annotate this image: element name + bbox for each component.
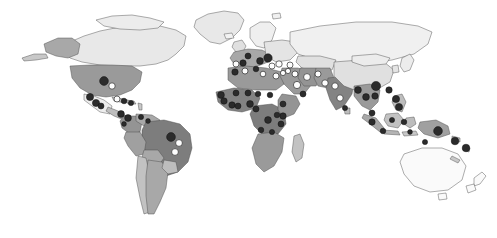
map-marker-balkans[interactable] bbox=[264, 54, 272, 62]
map-marker-brazil-north[interactable] bbox=[167, 133, 176, 142]
map-marker-vanuatu[interactable] bbox=[462, 144, 470, 152]
map-marker-iran[interactable] bbox=[304, 74, 311, 81]
map-marker-papua-new-guinea[interactable] bbox=[434, 127, 443, 136]
map-marker-malaysia[interactable] bbox=[369, 110, 375, 116]
map-marker-iraq[interactable] bbox=[292, 71, 298, 77]
map-marker-tunisia[interactable] bbox=[253, 66, 259, 72]
map-marker-myanmar[interactable] bbox=[355, 87, 362, 94]
map-marker-sudan[interactable] bbox=[267, 92, 273, 98]
map-marker-pakistan[interactable] bbox=[322, 80, 328, 86]
map-marker-chad[interactable] bbox=[255, 91, 261, 97]
map-marker-greece[interactable] bbox=[269, 63, 275, 69]
map-marker-algeria[interactable] bbox=[242, 68, 248, 74]
map-marker-solomon-islands[interactable] bbox=[451, 137, 459, 145]
map-marker-zambia[interactable] bbox=[269, 129, 274, 134]
map-marker-vietnam[interactable] bbox=[372, 93, 378, 99]
world-map-figure bbox=[0, 0, 497, 238]
map-marker-ecuador[interactable] bbox=[122, 122, 127, 127]
map-marker-dr-congo[interactable] bbox=[265, 117, 272, 124]
map-marker-mali[interactable] bbox=[233, 90, 239, 96]
map-marker-niger[interactable] bbox=[245, 90, 251, 96]
map-marker-syria[interactable] bbox=[285, 68, 290, 73]
map-marker-portugal[interactable] bbox=[233, 61, 239, 67]
map-marker-israel[interactable] bbox=[280, 70, 285, 75]
map-marker-kenya[interactable] bbox=[280, 113, 286, 119]
map-marker-mexico-north[interactable] bbox=[86, 93, 93, 100]
map-marker-colombia[interactable] bbox=[125, 115, 132, 122]
map-marker-turkey-east[interactable] bbox=[287, 62, 293, 68]
map-marker-libya[interactable] bbox=[260, 71, 266, 77]
map-marker-taiwan[interactable] bbox=[386, 87, 392, 93]
map-marker-turkey-west[interactable] bbox=[276, 61, 282, 67]
map-marker-mexico-south[interactable] bbox=[98, 103, 104, 109]
map-marker-tanzania[interactable] bbox=[278, 121, 284, 127]
map-marker-afghanistan[interactable] bbox=[315, 71, 321, 77]
map-marker-thailand[interactable] bbox=[363, 94, 370, 101]
map-marker-sumatra[interactable] bbox=[369, 119, 375, 125]
map-marker-united-states-east[interactable] bbox=[109, 83, 115, 89]
map-marker-philippines-south[interactable] bbox=[395, 103, 402, 110]
map-marker-sulawesi[interactable] bbox=[401, 119, 407, 125]
map-marker-angola[interactable] bbox=[258, 127, 264, 133]
map-marker-italy[interactable] bbox=[257, 58, 264, 65]
map-marker-india-south[interactable] bbox=[337, 95, 343, 101]
map-marker-panama[interactable] bbox=[118, 111, 125, 118]
map-marker-brazil-northeast[interactable] bbox=[176, 140, 183, 147]
map-marker-united-states[interactable] bbox=[100, 77, 109, 86]
map-marker-egypt[interactable] bbox=[273, 73, 279, 79]
map-marker-spain[interactable] bbox=[240, 60, 246, 66]
region-iceland[interactable] bbox=[224, 33, 234, 39]
map-marker-yemen[interactable] bbox=[300, 91, 306, 97]
map-marker-borneo[interactable] bbox=[389, 117, 394, 122]
map-marker-timor[interactable] bbox=[408, 130, 413, 135]
map-marker-nigeria[interactable] bbox=[247, 101, 254, 108]
map-marker-india-north[interactable] bbox=[332, 83, 338, 89]
map-marker-senegal[interactable] bbox=[218, 92, 225, 99]
map-marker-morocco[interactable] bbox=[232, 69, 238, 75]
map-marker-ivory-coast[interactable] bbox=[229, 102, 235, 108]
region-korea[interactable] bbox=[392, 65, 399, 73]
map-marker-saudi-arabia[interactable] bbox=[293, 81, 300, 88]
map-marker-hispaniola[interactable] bbox=[121, 98, 127, 104]
map-marker-china-south[interactable] bbox=[371, 81, 380, 90]
map-marker-sri-lanka[interactable] bbox=[342, 105, 347, 110]
map-marker-guinea[interactable] bbox=[221, 98, 227, 104]
map-marker-philippines-north[interactable] bbox=[392, 95, 399, 102]
region-svalbard[interactable] bbox=[272, 13, 281, 19]
region-tasmania[interactable] bbox=[438, 193, 447, 200]
map-marker-guyana[interactable] bbox=[146, 119, 151, 124]
map-marker-brazil-central[interactable] bbox=[172, 149, 179, 156]
world-map-canvas[interactable] bbox=[0, 0, 497, 238]
map-marker-france[interactable] bbox=[245, 53, 251, 59]
map-marker-cuba[interactable] bbox=[114, 96, 120, 102]
map-marker-java[interactable] bbox=[380, 128, 386, 134]
map-marker-ghana[interactable] bbox=[235, 103, 241, 109]
map-marker-new-caledonia[interactable] bbox=[422, 139, 427, 144]
map-marker-cameroon[interactable] bbox=[253, 106, 259, 112]
map-marker-venezuela[interactable] bbox=[138, 114, 143, 119]
map-marker-uganda[interactable] bbox=[274, 112, 280, 118]
map-marker-ethiopia[interactable] bbox=[280, 101, 286, 107]
map-marker-caribbean-east[interactable] bbox=[128, 100, 133, 105]
